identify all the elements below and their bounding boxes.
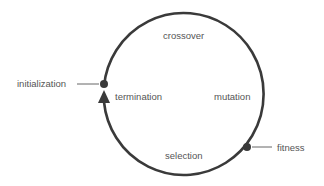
- fitness-dot: [243, 143, 251, 151]
- selection-label: selection: [165, 151, 203, 161]
- initialization-dot: [100, 80, 108, 88]
- cycle-arrowhead-icon: [98, 90, 110, 103]
- initialization-label: initialization: [17, 79, 66, 89]
- termination-label: termination: [115, 92, 162, 102]
- fitness-label: fitness: [277, 143, 304, 153]
- mutation-label: mutation: [214, 92, 250, 102]
- crossover-label: crossover: [163, 31, 204, 41]
- cycle-diagram: [0, 0, 324, 186]
